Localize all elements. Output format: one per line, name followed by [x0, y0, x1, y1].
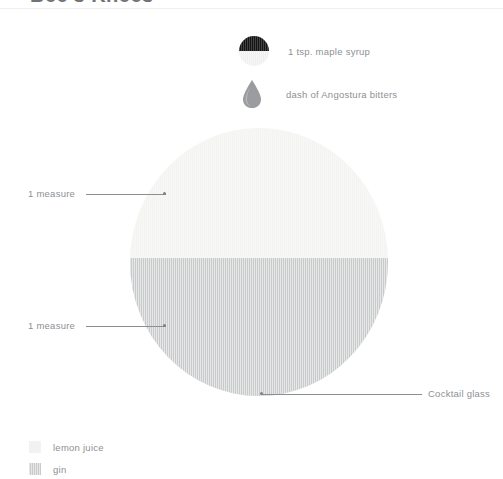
ingredient-angostura-bitters: dash of Angostura bitters: [239, 79, 397, 109]
legend-label: lemon juice: [53, 442, 104, 453]
legend-item-gin: gin: [29, 460, 104, 478]
callout-label-lemon-measure: 1 measure: [28, 188, 75, 199]
half-filled-circle-icon-top: [239, 36, 269, 51]
legend-swatch-gin: [29, 463, 41, 475]
half-filled-circle-icon-bottom: [239, 51, 269, 66]
legend: lemon juice gin: [29, 438, 104, 479]
callout-leader-line: [86, 326, 166, 327]
header-divider: [0, 8, 503, 9]
legend-swatch-lemon-juice: [29, 441, 41, 453]
callout-leader-line: [262, 394, 422, 395]
ingredient-maple-syrup: 1 tsp. maple syrup: [239, 36, 370, 66]
legend-item-lemon-juice: lemon juice: [29, 438, 104, 456]
half-filled-circle-icon: [239, 36, 269, 66]
callout-label-cocktail-glass: Cocktail glass: [428, 388, 490, 399]
ingredient-label: dash of Angostura bitters: [286, 89, 397, 100]
callout-endpoint-dot: [163, 192, 166, 195]
lemon-juice-layer: [130, 128, 388, 258]
legend-label: gin: [53, 464, 66, 475]
callout-endpoint-dot: [163, 324, 166, 327]
callout-leader-line: [86, 194, 166, 195]
recipe-diagram-page: Bee's Knees 1 tsp. maple syrup dash of A…: [0, 0, 503, 479]
cocktail-glass-diagram: [130, 128, 388, 396]
callout-endpoint-dot: [260, 392, 263, 395]
callout-label-gin-measure: 1 measure: [28, 320, 75, 331]
ingredient-label: 1 tsp. maple syrup: [288, 46, 370, 57]
page-title: Bee's Knees: [30, 0, 154, 7]
droplet-icon: [239, 79, 265, 109]
gin-layer: [130, 258, 388, 396]
